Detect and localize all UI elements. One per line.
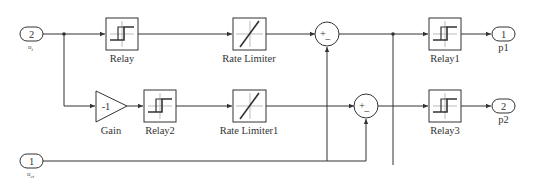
outport-2[interactable]: 2 p2 [492,99,515,125]
wire-junction-gain [64,34,95,106]
gain-block[interactable]: -1 Gain [96,91,127,136]
relay-block[interactable]: Relay [106,18,138,64]
rate-limiter1-label: Rate Limiter1 [220,125,279,136]
inport-2-label: ut [28,43,34,52]
inport-2[interactable]: 2 ut [20,27,43,52]
sum-bottom-minus: − [364,106,370,117]
rate-limiter-block[interactable]: Rate Limiter [222,18,276,64]
inport-1[interactable]: 1 uct [20,154,43,179]
relay3-label: Relay3 [430,125,460,136]
relay1-label: Relay1 [430,53,460,64]
sum-top-block[interactable]: + − [315,22,339,46]
sum-top-minus: − [325,34,331,45]
simulink-diagram: 2 ut 1 uct Relay Rate Limiter + − [0,0,533,186]
inport-2-number: 2 [29,29,34,40]
outport-1-label: p1 [498,42,509,53]
relay-label: Relay [110,53,135,64]
relay1-block[interactable]: Relay1 [429,18,461,64]
wire-in1-sum-bottom [43,119,366,161]
outport-1[interactable]: 1 p1 [492,27,515,53]
relay2-block[interactable]: Relay2 [144,90,176,136]
sum-bottom-block[interactable]: + − [354,94,378,118]
rate-limiter1-block[interactable]: Rate Limiter1 [220,90,279,136]
outport-2-label: p2 [498,114,509,125]
inport-1-label: uct [27,170,35,179]
outport-2-number: 2 [501,101,506,112]
relay3-block[interactable]: Relay3 [429,90,461,136]
gain-value: -1 [102,101,111,112]
outport-1-number: 1 [501,29,506,40]
inport-1-number: 1 [29,156,34,167]
gain-label: Gain [101,125,122,136]
rate-limiter-label: Rate Limiter [222,53,276,64]
relay2-label: Relay2 [145,125,175,136]
